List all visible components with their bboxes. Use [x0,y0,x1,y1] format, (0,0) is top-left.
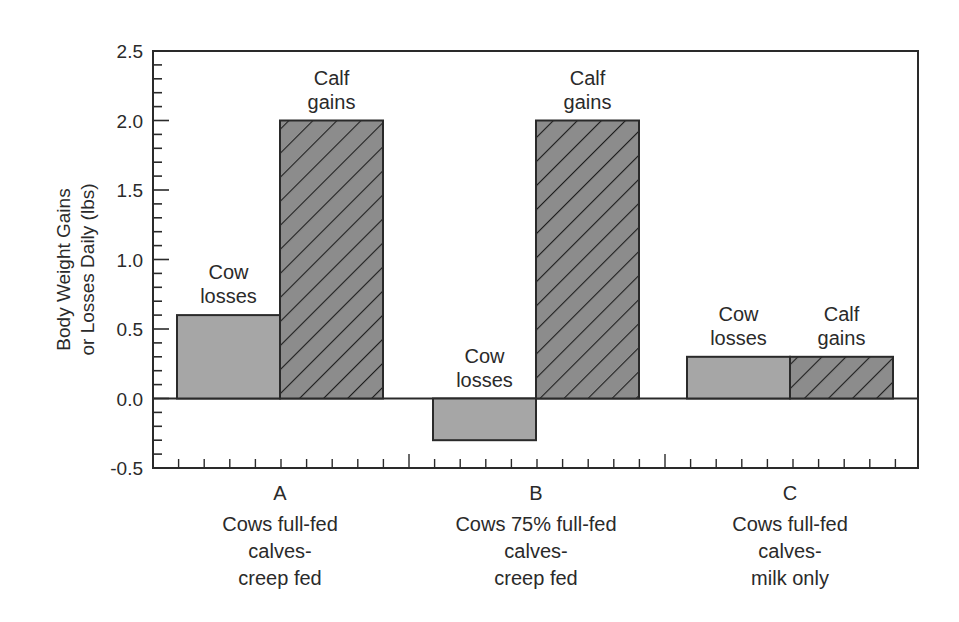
cow-losses-label: Cow [208,261,249,283]
y-tick-label: 0.0 [117,389,143,410]
category-letter: B [529,482,542,504]
category-letter: C [783,482,797,504]
category-description: calves- [504,540,567,562]
calf-gains-label: gains [564,91,612,113]
category-description: Cows full-fed [222,513,338,535]
calf-gains-bar-a [280,121,383,399]
calf-gains-label: Calf [314,67,350,89]
y-tick-label: 2.0 [117,111,143,132]
category-description: calves- [758,540,821,562]
calf-gains-label: gains [818,327,866,349]
category-description: creep fed [494,567,577,589]
y-axis-label: Body Weight Gainsor Losses Daily (lbs) [53,183,98,355]
y-tick-label: 2.5 [117,41,143,62]
category-description: Cows full-fed [732,513,848,535]
calf-gains-label: Calf [824,303,860,325]
y-axis-title: or Losses Daily (lbs) [77,183,98,355]
calf-gains-bar-b [536,121,639,399]
cow-losses-bar-c [687,357,790,399]
category-description: Cows 75% full-fed [455,513,616,535]
y-axis-title: Body Weight Gains [53,188,74,350]
bar-chart: -0.50.00.51.01.52.02.5 CowlossesCalfgain… [0,0,959,622]
category-description: milk only [751,567,829,589]
x-axis [179,454,896,468]
y-tick-label: 1.0 [117,250,143,271]
cow-losses-label: losses [710,327,767,349]
y-tick-label: 0.5 [117,319,143,340]
category-description: calves- [248,540,311,562]
cow-losses-label: Cow [718,303,759,325]
category-labels: ACows full-fedcalves-creep fedBCows 75% … [222,482,848,589]
cow-losses-bar-a [177,315,280,398]
calf-gains-label: Calf [570,67,606,89]
y-tick-label: -0.5 [110,458,143,479]
calf-gains-bar-c [790,357,893,399]
calf-gains-label: gains [308,91,356,113]
cow-losses-label: Cow [464,345,505,367]
category-letter: A [273,482,287,504]
cow-losses-label: losses [456,369,513,391]
bars [177,121,893,441]
cow-losses-label: losses [200,285,257,307]
cow-losses-bar-b [433,399,536,441]
y-tick-label: 1.5 [117,180,143,201]
category-description: creep fed [238,567,321,589]
